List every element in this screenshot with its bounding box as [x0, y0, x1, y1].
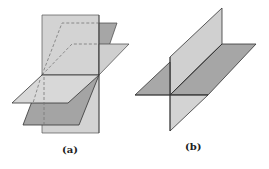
diagram-canvas: [0, 0, 269, 169]
caption-a: (a): [62, 144, 78, 155]
figure-b: [135, 8, 256, 131]
figure-a: [12, 15, 129, 133]
caption-b: (b): [185, 141, 201, 152]
light-plane-back-a: [99, 44, 129, 75]
horizontal-plane-left-b: [135, 62, 170, 95]
vertical-plane-lower-b: [170, 95, 208, 131]
